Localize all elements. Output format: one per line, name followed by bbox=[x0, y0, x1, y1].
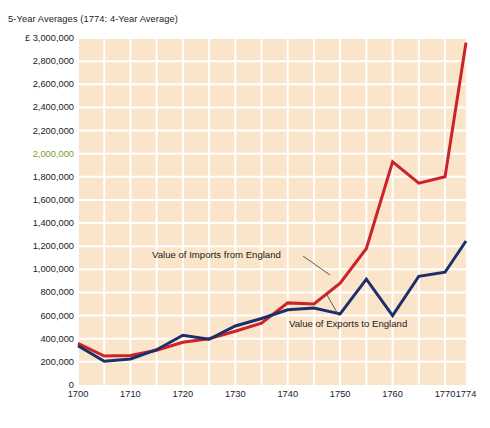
y-axis-tick-label: 1,600,000 bbox=[33, 195, 74, 205]
x-axis-tick-label: 1710 bbox=[120, 389, 141, 399]
x-axis-tick-label: 1720 bbox=[173, 389, 194, 399]
x-axis-tick-label: 1774 bbox=[456, 389, 477, 399]
series-line-imports bbox=[78, 43, 466, 356]
y-axis-tick-label: 1,200,000 bbox=[33, 241, 74, 251]
y-axis-tick-label: 1,000,000 bbox=[33, 264, 74, 274]
annotation-exports-label: Value of Exports to England bbox=[289, 318, 407, 329]
x-axis-tick-label: 1770 bbox=[435, 389, 456, 399]
annotation-imports-label: Value of Imports from England bbox=[152, 249, 281, 260]
y-axis-tick-label: 1,400,000 bbox=[33, 218, 74, 228]
x-axis-tick-label: 1700 bbox=[68, 389, 89, 399]
x-axis-tick-label: 1750 bbox=[330, 389, 351, 399]
y-axis-tick-label: 2,800,000 bbox=[33, 56, 74, 66]
y-axis-tick-label: 800,000 bbox=[40, 287, 74, 297]
x-axis-tick-label: 1740 bbox=[277, 389, 298, 399]
x-axis-tick-label: 1730 bbox=[225, 389, 246, 399]
y-axis-tick-label: 2,400,000 bbox=[33, 102, 74, 112]
y-axis-tick-label: 2,200,000 bbox=[33, 126, 74, 136]
y-axis-tick-label: £ 3,000,000 bbox=[25, 33, 74, 43]
y-axis-tick-label: 1,800,000 bbox=[33, 172, 74, 182]
y-axis-tick-label: 2,600,000 bbox=[33, 79, 74, 89]
plot-area bbox=[78, 38, 466, 385]
y-axis-tick-label: 600,000 bbox=[40, 311, 74, 321]
data-series-layer bbox=[78, 38, 466, 385]
y-axis-labels: £ 3,000,0002,800,0002,600,0002,400,0002,… bbox=[0, 0, 74, 428]
chart-container: 5-Year Averages (1774: 4-Year Average) £… bbox=[0, 0, 490, 428]
y-axis-tick-label: 2,000,000 bbox=[33, 149, 74, 159]
x-axis-tick-label: 1760 bbox=[382, 389, 403, 399]
y-axis-tick-label: 200,000 bbox=[40, 357, 74, 367]
y-axis-tick-label: 400,000 bbox=[40, 334, 74, 344]
